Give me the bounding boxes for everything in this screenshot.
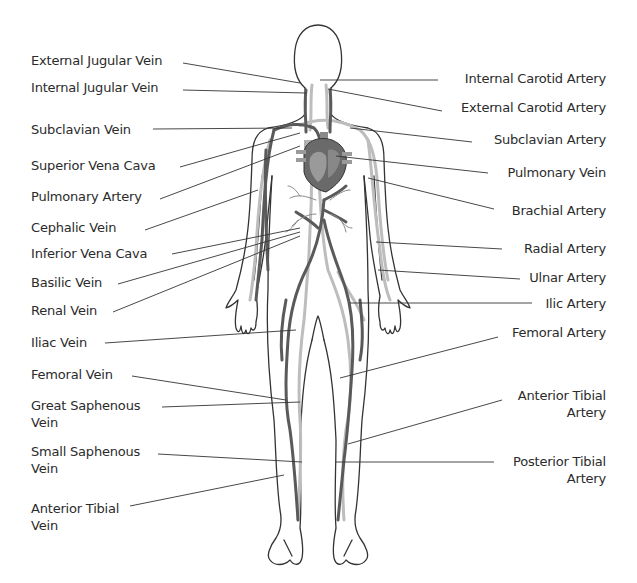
label-external-jugular-vein: External Jugular Vein — [31, 52, 162, 69]
label-basilic-vein: Basilic Vein — [31, 274, 102, 291]
label-internal-jugular-vein: Internal Jugular Vein — [31, 79, 158, 96]
label-femoral-vein: Femoral Vein — [31, 366, 113, 383]
label-line-2: Vein — [31, 517, 119, 534]
label-line-2: Artery — [513, 470, 606, 487]
label-superior-vena-cava: Superior Vena Cava — [31, 157, 155, 174]
label-line-1: Anterior Tibial — [518, 387, 606, 404]
label-femoral-artery: Femoral Artery — [512, 324, 606, 341]
label-brachial-artery: Brachial Artery — [512, 202, 606, 219]
heart — [296, 132, 352, 192]
label-line-1: Great Saphenous — [31, 397, 140, 414]
label-internal-carotid-artery: Internal Carotid Artery — [465, 70, 606, 87]
label-external-carotid-artery: External Carotid Artery — [461, 99, 606, 116]
label-iliac-vein: Iliac Vein — [31, 334, 87, 351]
label-posterior-tibial-artery: Posterior Tibial Artery — [513, 453, 606, 487]
label-radial-artery: Radial Artery — [524, 240, 606, 257]
label-subclavian-artery: Subclavian Artery — [494, 131, 606, 148]
label-line-1: Small Saphenous — [31, 443, 140, 460]
label-inferior-vena-cava: Inferior Vena Cava — [31, 245, 147, 262]
label-pulmonary-vein: Pulmonary Vein — [508, 164, 606, 181]
label-renal-vein: Renal Vein — [31, 302, 97, 319]
label-line-2: Artery — [518, 404, 606, 421]
label-cephalic-vein: Cephalic Vein — [31, 219, 116, 236]
label-anterior-tibial-vein: Anterior Tibial Vein — [31, 500, 119, 534]
label-pulmonary-artery: Pulmonary Artery — [31, 188, 142, 205]
label-anterior-tibial-artery: Anterior Tibial Artery — [518, 387, 606, 421]
label-ulnar-artery: Ulnar Artery — [529, 269, 606, 286]
label-subclavian-vein: Subclavian Vein — [31, 121, 131, 138]
label-line-1: Anterior Tibial — [31, 500, 119, 517]
label-great-saphenous-vein: Great Saphenous Vein — [31, 397, 140, 431]
label-small-saphenous-vein: Small Saphenous Vein — [31, 443, 140, 477]
label-line-2: Vein — [31, 414, 140, 431]
label-line-1: Posterior Tibial — [513, 453, 606, 470]
body-outline — [226, 25, 410, 565]
label-line-2: Vein — [31, 460, 140, 477]
label-ilic-artery: Ilic Artery — [545, 295, 606, 312]
